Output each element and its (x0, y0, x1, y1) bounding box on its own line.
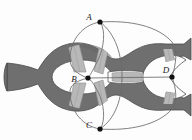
point-C[interactable]: C (86, 120, 103, 132)
surface-body (4, 36, 191, 116)
point-C-label: C (86, 120, 93, 130)
surface-left-tube (4, 63, 7, 91)
point-A-dot (97, 19, 102, 24)
point-C-dot (97, 126, 102, 131)
point-B-dot (85, 75, 90, 80)
figure-container: A B C D (0, 0, 192, 140)
point-D-label: D (162, 65, 170, 75)
point-D-dot (169, 74, 174, 79)
point-A-label: A (85, 12, 92, 22)
point-B-label: B (71, 74, 77, 84)
surface-diagram: A B C D (0, 0, 192, 140)
point-A[interactable]: A (85, 12, 102, 25)
